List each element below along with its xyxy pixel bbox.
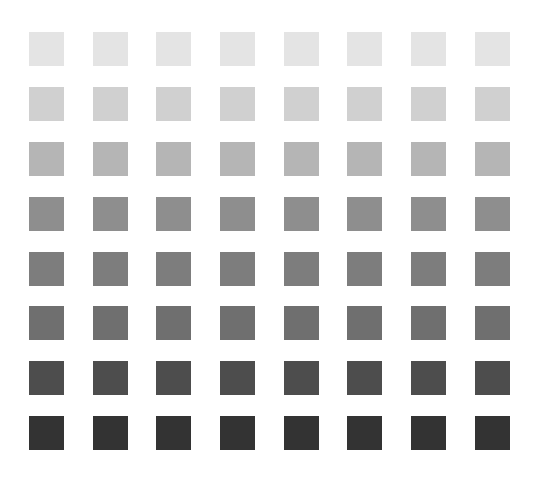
gray-swatch-r7-c2 [93, 361, 128, 395]
gray-swatch-r7-c4 [220, 361, 255, 395]
gray-swatch-r4-c3 [156, 197, 191, 231]
gray-swatch-r1-c7 [411, 32, 446, 66]
gray-swatch-r3-c2 [93, 142, 128, 176]
gray-swatch-r8-c7 [411, 416, 446, 450]
gray-swatch-r2-c3 [156, 87, 191, 121]
gray-swatch-r5-c6 [347, 252, 382, 286]
gray-swatch-r3-c8 [475, 142, 510, 176]
gray-swatch-r5-c5 [284, 252, 319, 286]
gray-swatch-r1-c1 [29, 32, 64, 66]
gray-swatch-r7-c3 [156, 361, 191, 395]
gray-swatch-r4-c1 [29, 197, 64, 231]
gray-swatch-r2-c6 [347, 87, 382, 121]
gray-swatch-r8-c2 [93, 416, 128, 450]
gray-swatch-r7-c1 [29, 361, 64, 395]
gray-swatch-r4-c6 [347, 197, 382, 231]
gray-swatch-r3-c6 [347, 142, 382, 176]
gray-swatch-r3-c1 [29, 142, 64, 176]
gray-swatch-r7-c7 [411, 361, 446, 395]
gray-swatch-r8-c4 [220, 416, 255, 450]
gray-swatch-r8-c6 [347, 416, 382, 450]
gray-swatch-r5-c3 [156, 252, 191, 286]
gray-swatch-r2-c7 [411, 87, 446, 121]
gray-swatch-r4-c8 [475, 197, 510, 231]
gray-swatch-r5-c4 [220, 252, 255, 286]
gray-swatch-r1-c8 [475, 32, 510, 66]
gray-swatch-r7-c8 [475, 361, 510, 395]
gray-swatch-r6-c3 [156, 306, 191, 340]
gray-swatch-r8-c8 [475, 416, 510, 450]
gray-swatch-r5-c1 [29, 252, 64, 286]
gray-swatch-r4-c5 [284, 197, 319, 231]
gray-swatch-r6-c7 [411, 306, 446, 340]
gray-swatch-r2-c1 [29, 87, 64, 121]
gray-swatch-r2-c2 [93, 87, 128, 121]
gray-swatch-r1-c4 [220, 32, 255, 66]
gray-swatch-r6-c1 [29, 306, 64, 340]
gray-swatch-r5-c8 [475, 252, 510, 286]
gray-swatch-r8-c3 [156, 416, 191, 450]
gray-swatch-r4-c4 [220, 197, 255, 231]
gray-swatch-r2-c4 [220, 87, 255, 121]
gray-swatch-r1-c6 [347, 32, 382, 66]
gray-swatch-r3-c5 [284, 142, 319, 176]
gray-swatch-r4-c7 [411, 197, 446, 231]
gray-swatch-r5-c7 [411, 252, 446, 286]
gray-swatch-r2-c5 [284, 87, 319, 121]
gray-swatch-r8-c1 [29, 416, 64, 450]
gray-swatch-r6-c5 [284, 306, 319, 340]
gray-swatch-r7-c5 [284, 361, 319, 395]
gray-swatch-r1-c3 [156, 32, 191, 66]
gray-swatch-r3-c7 [411, 142, 446, 176]
gray-swatch-r2-c8 [475, 87, 510, 121]
gray-swatch-r1-c5 [284, 32, 319, 66]
gray-swatch-r3-c3 [156, 142, 191, 176]
gray-swatch-r3-c4 [220, 142, 255, 176]
gray-swatch-r6-c6 [347, 306, 382, 340]
gray-swatch-r8-c5 [284, 416, 319, 450]
gray-swatch-r7-c6 [347, 361, 382, 395]
gray-swatch-r6-c4 [220, 306, 255, 340]
gray-swatch-r6-c2 [93, 306, 128, 340]
gray-swatch-r5-c2 [93, 252, 128, 286]
gray-swatch-grid [29, 32, 510, 451]
gray-swatch-r4-c2 [93, 197, 128, 231]
gray-swatch-r6-c8 [475, 306, 510, 340]
gray-swatch-r1-c2 [93, 32, 128, 66]
